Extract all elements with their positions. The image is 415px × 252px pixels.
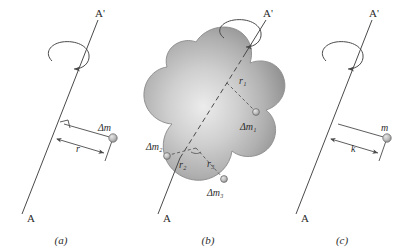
panel-b-radius-label-2: r₂ <box>179 159 187 170</box>
panel-c-radius-label: k <box>351 143 356 154</box>
panel-c-caption: (c) <box>322 234 362 246</box>
panel-b-mass-label-3: Δm₃ <box>206 187 224 198</box>
panel-b-rotation-axis-lower <box>158 158 180 214</box>
panel-c-axis-top-label: A' <box>369 7 379 19</box>
panel-a-axis-top-label: A' <box>95 7 105 19</box>
rotational-inertia-figure: A' A Δm r <box>0 0 415 252</box>
panel-a-caption: (a) <box>41 234 81 246</box>
panel-c-mass-dot <box>383 134 391 142</box>
panel-c-mass-label: m <box>381 122 388 133</box>
panel-b-rotation-axis-upper <box>245 20 266 54</box>
panel-a-radius-dimension-arrow <box>57 139 104 153</box>
panel-b-axis-bottom-label: A <box>163 212 171 224</box>
panel-a-mass-dot <box>109 134 117 142</box>
panel-b-mass-label-1: Δm₁ <box>239 121 257 132</box>
panel-a-axis-bottom-label: A <box>27 212 35 224</box>
panel-b-radius-label-3: r₃ <box>207 158 215 169</box>
panel-a: A' A Δm r <box>22 7 117 224</box>
panel-b-axis-top-label: A' <box>263 7 273 19</box>
panel-a-rotation-arrow <box>48 42 89 69</box>
panel-c: A' A m k <box>296 7 391 224</box>
panel-b-radius-label-1: r₁ <box>239 75 246 86</box>
panel-b-mass-label-2: Δm₂ <box>145 141 163 152</box>
panel-b: A' A r₁ Δm₁ r₂ Δm₂ r₃ Δm₃ <box>144 7 285 224</box>
panel-b-caption: (b) <box>188 234 228 246</box>
panel-b-mass-dot-2 <box>164 153 171 160</box>
panel-c-rotation-arrow <box>322 42 363 69</box>
figure-canvas: A' A Δm r <box>0 0 415 252</box>
panel-b-mass-dot-1 <box>253 109 260 116</box>
panel-c-perpendicular-line <box>338 124 387 138</box>
panel-a-mass-label: Δm <box>97 122 111 133</box>
panel-c-axis-bottom-label: A <box>301 212 309 224</box>
panel-a-radius-label: r <box>76 143 80 154</box>
panel-b-mass-dot-3 <box>221 176 228 183</box>
